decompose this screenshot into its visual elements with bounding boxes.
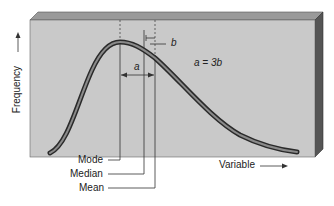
panel-top-bevel [30, 12, 323, 20]
y-axis-arrowhead [16, 32, 21, 38]
median-label: Median [70, 168, 103, 179]
relation-label: a = 3b [194, 57, 222, 68]
mode-label: Mode [78, 154, 103, 165]
x-axis-label: Variable [219, 159, 255, 170]
b-label: b [171, 37, 177, 48]
mean-label: Mean [79, 182, 104, 193]
panel-side [315, 12, 323, 157]
a-label: a [134, 61, 140, 72]
skew-diagram-graphic [0, 0, 334, 206]
x-axis-arrowhead [282, 164, 288, 169]
y-axis-label: Frequency [11, 60, 22, 120]
